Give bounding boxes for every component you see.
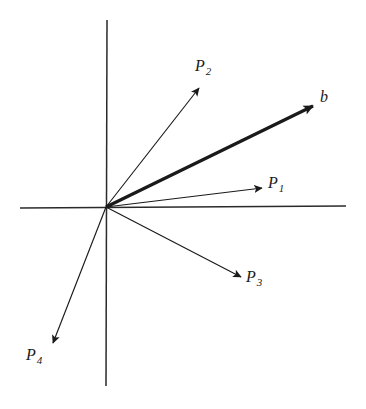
- vector-diagram-figure: P2 b P1 P3 P4: [0, 0, 366, 409]
- vector-label-b-subscript: [328, 96, 329, 108]
- vector-label-b-base: b: [320, 88, 328, 105]
- vector-P3-arrow: [106, 207, 241, 277]
- vector-label-P3-base: P: [246, 268, 256, 285]
- axes-group: [20, 20, 346, 386]
- vector-label-P2-base: P: [195, 57, 205, 74]
- vector-label-P1: P1: [268, 175, 284, 194]
- vectors-group: [53, 88, 313, 343]
- vector-label-P1-subscript: 1: [278, 182, 285, 194]
- vector-label-P3: P3: [246, 269, 262, 288]
- vector-label-P2-subscript: 2: [205, 65, 212, 77]
- vector-label-P3-subscript: 3: [256, 276, 263, 288]
- vector-P1-arrow: [106, 188, 262, 207]
- horizontal-axis: [20, 206, 346, 208]
- vector-label-P4-subscript: 4: [36, 354, 43, 366]
- vector-P4-arrow: [53, 207, 106, 343]
- vector-P2-arrow: [106, 88, 199, 207]
- vector-diagram-canvas: [0, 0, 366, 409]
- vector-label-P4-base: P: [26, 346, 36, 363]
- vector-label-b: b: [320, 89, 329, 108]
- vector-label-P1-base: P: [268, 174, 278, 191]
- vertical-axis: [106, 20, 107, 386]
- vector-label-P2: P2: [195, 58, 211, 77]
- vector-label-P4: P4: [26, 347, 42, 366]
